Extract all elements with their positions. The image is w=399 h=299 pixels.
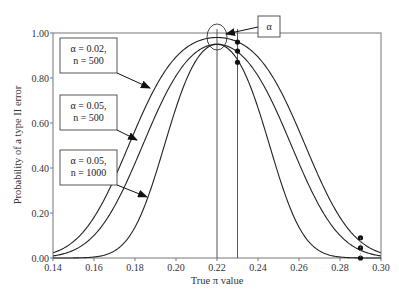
y-tick-label: 0.20 — [32, 208, 50, 219]
highlight-point — [235, 60, 240, 65]
y-tick-label: 0.60 — [32, 118, 50, 129]
series-label-3: α = 0.05,n = 1000 — [60, 150, 147, 197]
x-tick-label: 0.20 — [167, 262, 185, 273]
x-axis-label: True π value — [191, 275, 244, 286]
y-tick-label: 0.80 — [32, 73, 50, 84]
series-label-2: α = 0.05,n = 500 — [60, 95, 137, 140]
x-axis-ticks: 0.140.160.180.200.220.240.260.280.30 — [44, 258, 390, 273]
y-tick-label: 0.40 — [32, 163, 50, 174]
highlight-point — [235, 48, 240, 53]
y-axis-label: Probability of a type II error — [12, 85, 23, 204]
series-label-text: α = 0.05, — [71, 155, 107, 166]
x-tick-label: 0.30 — [372, 262, 390, 273]
x-tick-label: 0.22 — [208, 262, 226, 273]
series-label-text: n = 500 — [73, 112, 104, 123]
alpha-annotation: α — [226, 16, 280, 37]
series-label-text: n = 1000 — [71, 167, 107, 178]
series-label-arrow — [117, 73, 150, 88]
x-tick-label: 0.16 — [85, 262, 103, 273]
x-tick-label: 0.14 — [44, 262, 62, 273]
series-labels: α = 0.02,n = 500α = 0.05,n = 500α = 0.05… — [60, 38, 150, 197]
y-axis-ticks: 0.000.200.400.600.801.00 — [32, 28, 54, 264]
x-tick-label: 0.18 — [126, 262, 144, 273]
series-label-text: α = 0.05, — [71, 100, 107, 111]
type-ii-error-chart: 0.000.200.400.600.801.00 0.140.160.180.2… — [0, 0, 399, 299]
series-label-1: α = 0.02,n = 500 — [60, 38, 150, 88]
series-label-arrow — [117, 185, 147, 197]
y-tick-label: 1.00 — [32, 28, 50, 39]
series-label-text: n = 500 — [73, 55, 104, 66]
series-label-text: α = 0.02, — [71, 43, 107, 54]
x-tick-label: 0.28 — [331, 262, 349, 273]
x-tick-label: 0.24 — [249, 262, 267, 273]
x-tick-label: 0.26 — [290, 262, 308, 273]
highlight-point — [235, 39, 240, 44]
series-label-arrow — [117, 130, 137, 140]
alpha-box-text: α — [266, 21, 272, 32]
reference-lines — [217, 29, 238, 258]
